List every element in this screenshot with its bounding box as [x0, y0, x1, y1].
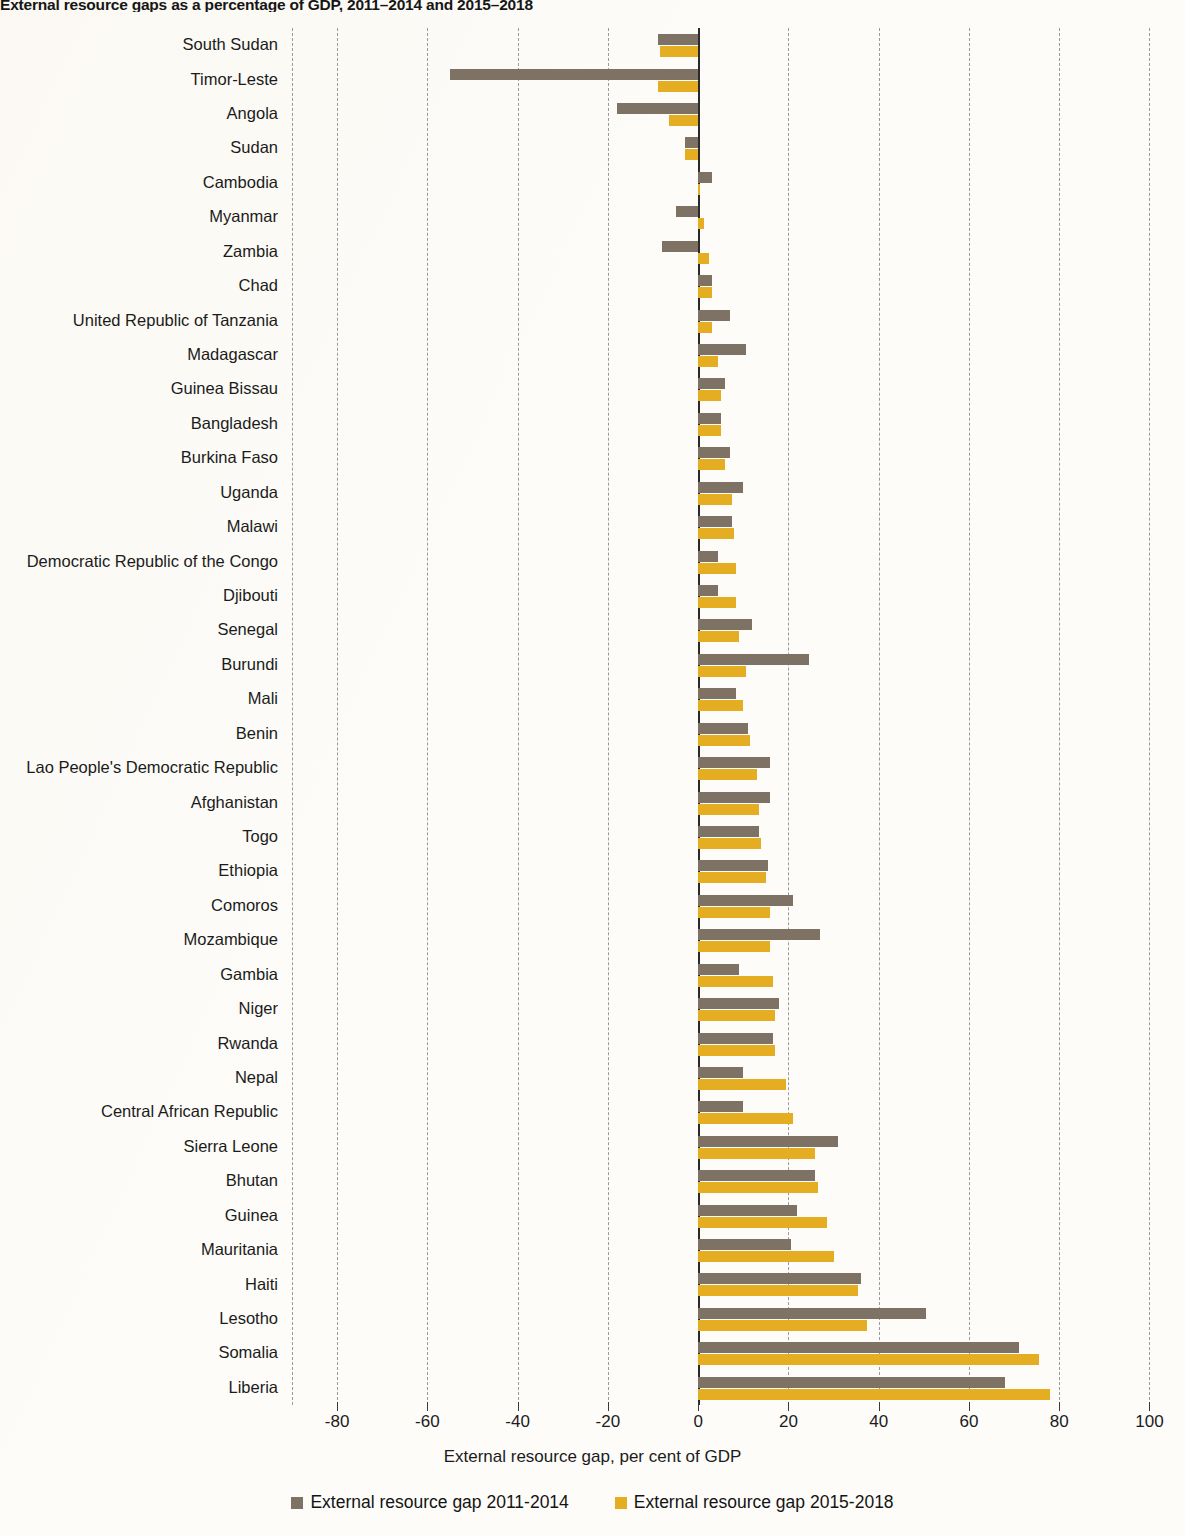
bar-2	[660, 46, 698, 57]
bar-2	[698, 390, 721, 401]
tick-label: -40	[505, 1412, 530, 1432]
bar-2	[698, 941, 770, 952]
bar-group	[292, 785, 1172, 819]
bar-group	[292, 1026, 1172, 1060]
bar-1	[698, 688, 736, 699]
category-label: Lao People's Democratic Republic	[26, 759, 278, 776]
bar-2	[698, 666, 745, 677]
tick-label: -20	[596, 1412, 621, 1432]
category-label: Rwanda	[217, 1035, 278, 1052]
bar-1	[698, 964, 739, 975]
bar-group	[292, 303, 1172, 337]
bar-group	[292, 97, 1172, 131]
bar-group	[292, 682, 1172, 716]
bar-1	[698, 447, 730, 458]
category-label: Nepal	[235, 1069, 278, 1086]
bar-group	[292, 1130, 1172, 1164]
legend-item: External resource gap 2011-2014	[291, 1492, 568, 1513]
bar-1	[698, 516, 732, 527]
bar-2	[698, 1182, 818, 1193]
category-label: Sierra Leone	[184, 1138, 278, 1155]
plot-area	[292, 28, 1172, 1405]
bar-group	[292, 372, 1172, 406]
bar-2	[698, 1010, 775, 1021]
bar-2	[698, 1113, 793, 1124]
bar-1	[676, 206, 699, 217]
tick-mark	[969, 1402, 970, 1411]
bar-group	[292, 131, 1172, 165]
bar-group	[292, 166, 1172, 200]
category-label: Malawi	[227, 518, 278, 535]
bar-group	[292, 200, 1172, 234]
category-label: Somalia	[218, 1344, 278, 1361]
chart-legend: External resource gap 2011-2014External …	[0, 1492, 1185, 1513]
bar-1	[698, 757, 770, 768]
bar-group	[292, 476, 1172, 510]
bar-group	[292, 544, 1172, 578]
bar-2	[698, 631, 739, 642]
bar-2	[698, 459, 725, 470]
tick-label: 40	[869, 1412, 888, 1432]
bar-2	[698, 976, 772, 987]
category-label: Cambodia	[203, 174, 278, 191]
category-label: Zambia	[223, 243, 278, 260]
bar-group	[292, 1336, 1172, 1370]
tick-label: 20	[779, 1412, 798, 1432]
tick-mark	[337, 1402, 338, 1411]
tick-mark	[698, 1402, 699, 1411]
bar-2	[698, 218, 704, 229]
bar-2	[698, 1217, 827, 1228]
category-label: Guinea	[225, 1207, 278, 1224]
bar-1	[698, 1136, 838, 1147]
category-label: United Republic of Tanzania	[73, 312, 278, 329]
bar-2	[698, 184, 700, 195]
bar-1	[662, 241, 698, 252]
bar-group	[292, 28, 1172, 62]
bar-2	[698, 804, 759, 815]
x-axis-title: External resource gap, per cent of GDP	[0, 1447, 1185, 1467]
legend-swatch-icon	[291, 1497, 303, 1509]
bar-group	[292, 751, 1172, 785]
bar-2	[698, 1045, 775, 1056]
bar-group	[292, 579, 1172, 613]
category-label: Chad	[239, 277, 278, 294]
bar-1	[698, 585, 718, 596]
bar-group	[292, 1095, 1172, 1129]
bar-group	[292, 269, 1172, 303]
bar-group	[292, 923, 1172, 957]
tick-label: 100	[1135, 1412, 1163, 1432]
bar-1	[685, 137, 699, 148]
bar-group	[292, 510, 1172, 544]
bar-group	[292, 820, 1172, 854]
category-label: Mali	[248, 690, 278, 707]
bar-group	[292, 441, 1172, 475]
category-label: Central African Republic	[101, 1103, 278, 1120]
bar-2	[698, 872, 766, 883]
value-axis-ticks: -80-60-40-20020406080100	[292, 1412, 1172, 1438]
bar-2	[698, 1251, 833, 1262]
category-label: Togo	[242, 828, 278, 845]
bar-1	[617, 103, 698, 114]
bar-group	[292, 957, 1172, 991]
bar-group	[292, 235, 1172, 269]
category-label: Afghanistan	[191, 794, 278, 811]
legend-swatch-icon	[615, 1497, 627, 1509]
bar-1	[698, 1308, 926, 1319]
bar-group	[292, 1061, 1172, 1095]
bar-1	[698, 310, 730, 321]
bar-group	[292, 992, 1172, 1026]
tick-mark	[1059, 1402, 1060, 1411]
category-label: Madagascar	[187, 346, 278, 363]
bar-group	[292, 889, 1172, 923]
category-label: Bhutan	[226, 1172, 278, 1189]
category-label: Comoros	[211, 897, 278, 914]
legend-label: External resource gap 2011-2014	[310, 1492, 568, 1513]
bar-group	[292, 854, 1172, 888]
category-label: Senegal	[217, 621, 278, 638]
bar-2	[698, 1320, 867, 1331]
legend-label: External resource gap 2015-2018	[634, 1492, 894, 1513]
category-label: South Sudan	[183, 36, 278, 53]
bar-2	[698, 563, 736, 574]
bar-1	[698, 482, 743, 493]
bar-1	[698, 551, 718, 562]
